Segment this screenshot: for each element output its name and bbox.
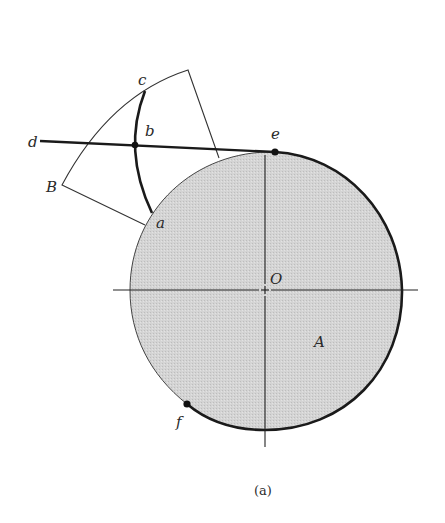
label-O: O	[270, 270, 282, 288]
label-c: c	[138, 71, 147, 89]
cam-body	[130, 152, 402, 430]
label-f: f	[175, 413, 184, 431]
label-d: d	[28, 133, 38, 151]
line-d-e	[40, 141, 275, 152]
label-e: e	[271, 125, 280, 143]
point-b	[132, 142, 139, 149]
label-b: b	[145, 122, 155, 140]
label-A: A	[312, 333, 325, 351]
point-f	[183, 400, 190, 407]
follower-arc-c-a	[135, 91, 152, 213]
label-a: a	[156, 214, 165, 232]
cam-diagram: c b d B a e O A f (a)	[0, 0, 445, 523]
point-e	[271, 148, 278, 155]
figure-caption: (a)	[254, 483, 272, 498]
label-B: B	[45, 178, 57, 196]
